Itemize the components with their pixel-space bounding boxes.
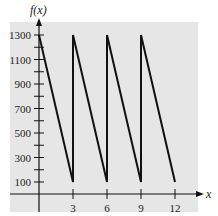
y-tick-label: 700 [15,103,32,115]
x-tick-label: 3 [70,202,76,214]
y-tick-label: 900 [15,78,32,90]
sawtooth-chart: 1003005007009001100130036912 f(x) x [0,0,218,216]
y-axis-title: f(x) [30,3,47,17]
x-tick-label: 9 [138,202,144,214]
x-tick-label: 12 [170,202,181,214]
y-tick-label: 300 [15,152,32,164]
y-tick-label: 500 [15,127,32,139]
x-axis-title: x [205,187,212,201]
plot-background [10,22,198,212]
x-tick-label: 6 [104,202,110,214]
y-tick-label: 1100 [9,54,31,66]
x-axis-arrow-icon [196,191,204,197]
y-tick-label: 1300 [9,29,32,41]
y-tick-label: 100 [15,176,32,188]
